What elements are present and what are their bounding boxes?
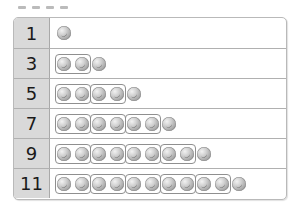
ball-icon [162, 147, 176, 161]
balls-cell [52, 18, 286, 48]
row-number-label: 9 [14, 139, 50, 168]
ball-icon [75, 117, 89, 131]
ball-icon [92, 57, 106, 71]
ball-icon [92, 147, 106, 161]
ball-icon [127, 87, 141, 101]
table-row: 9 [14, 138, 286, 168]
ball-icon [57, 57, 71, 71]
ball-icon [57, 147, 71, 161]
row-number-label: 1 [14, 18, 50, 48]
ball-icon [92, 117, 106, 131]
ball-icon [180, 177, 194, 191]
ball-icon [145, 147, 159, 161]
ball-icon [75, 177, 89, 191]
balls-cell [52, 109, 286, 138]
ball-icon [162, 177, 176, 191]
ball-icon [180, 147, 194, 161]
ball-icon [57, 87, 71, 101]
row-number-label: 5 [14, 79, 50, 108]
balls-cell [52, 139, 286, 168]
ball-icon [197, 177, 211, 191]
ball-icon [75, 147, 89, 161]
balls-cell [52, 79, 286, 108]
table-row: 5 [14, 78, 286, 108]
row-number-label: 3 [14, 49, 50, 78]
ball-icon [92, 177, 106, 191]
ball-icon [127, 117, 141, 131]
balls-cell [52, 49, 286, 78]
table-row: 1 [14, 18, 286, 48]
table-row: 3 [14, 48, 286, 78]
ball-icon [127, 147, 141, 161]
ball-icon [92, 87, 106, 101]
balls-cell [52, 169, 286, 198]
table-row: 11 [14, 168, 286, 198]
ball-icon [75, 87, 89, 101]
ball-icon [75, 57, 89, 71]
ball-icon [57, 177, 71, 191]
row-number-label: 7 [14, 109, 50, 138]
odd-numbers-table: 1357911 [13, 17, 287, 200]
ball-icon [110, 177, 124, 191]
ball-icon [215, 177, 229, 191]
table-row: 7 [14, 108, 286, 138]
cropped-heading [18, 0, 98, 2]
ball-icon [110, 147, 124, 161]
ball-icon [162, 117, 176, 131]
ball-icon [57, 117, 71, 131]
ball-icon [197, 147, 211, 161]
ball-icon [127, 177, 141, 191]
ball-icon [145, 177, 159, 191]
row-number-label: 11 [14, 169, 50, 198]
ball-icon [145, 117, 159, 131]
ball-icon [110, 117, 124, 131]
ball-icon [110, 87, 124, 101]
ball-icon [232, 177, 246, 191]
ball-icon [57, 26, 71, 40]
